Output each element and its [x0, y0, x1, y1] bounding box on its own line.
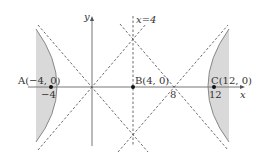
y-axis-arrow-icon [90, 16, 94, 21]
x-axis-label: x [240, 89, 246, 100]
point-a-label: A(−4, 0) [17, 75, 61, 86]
vertical-line-label: x=4 [136, 14, 156, 25]
tick-8: 8 [170, 89, 176, 100]
tick-12: 12 [209, 89, 222, 100]
hyperbola-diagram: A(−4, 0) −4 B(4, 0) 8 C(12, 0) 12 x y x=… [0, 0, 263, 162]
tick-minus-4: −4 [41, 89, 56, 100]
point-b-label: B(4, 0) [135, 75, 169, 86]
point-c-label: C(12, 0) [211, 75, 252, 86]
y-axis-label: y [83, 11, 90, 22]
